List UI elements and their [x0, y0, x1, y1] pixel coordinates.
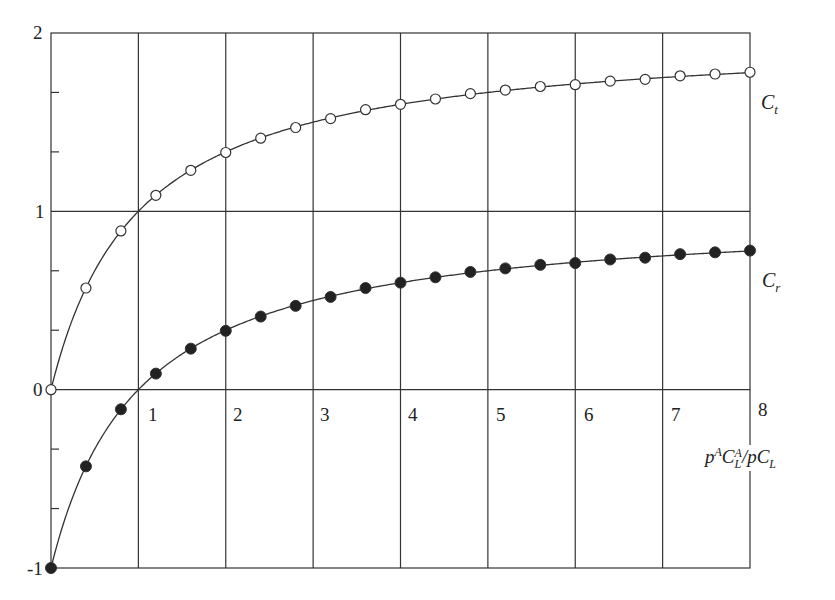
xlabel-sup-a: A: [715, 445, 722, 459]
x-tick-6: 6: [584, 405, 594, 424]
filled-circle-marker-icon: [710, 247, 721, 258]
open-circle-marker-icon: [186, 165, 196, 175]
filled-circle-marker-icon: [80, 461, 91, 472]
filled-circle-marker-icon: [675, 249, 686, 260]
ct-sub: t: [774, 102, 778, 117]
filled-circle-marker-icon: [255, 311, 266, 322]
x-axis-label: pACAL/pCL: [703, 445, 778, 471]
open-circle-marker-icon: [46, 385, 56, 395]
xlabel-c: C: [722, 446, 735, 467]
x-tick-5: 5: [496, 405, 506, 424]
open-circle-marker-icon: [675, 71, 685, 81]
filled-circle-marker-icon: [115, 404, 126, 415]
filled-circle-marker-icon: [570, 258, 581, 269]
filled-circle-marker-icon: [745, 245, 756, 256]
open-circle-marker-icon: [116, 226, 126, 236]
y-tick-0: 0: [33, 380, 43, 399]
open-circle-marker-icon: [640, 74, 650, 84]
filled-circle-marker-icon: [535, 259, 546, 270]
filled-circle-marker-icon: [395, 277, 406, 288]
x-tick-3: 3: [320, 405, 330, 424]
filled-circle-marker-icon: [290, 300, 301, 311]
chart-plot: [0, 0, 835, 600]
open-circle-marker-icon: [326, 114, 336, 124]
filled-circle-marker-icon: [500, 263, 511, 274]
series-label-ct: Ct: [761, 92, 778, 116]
filled-circle-marker-icon: [605, 254, 616, 265]
xlabel-sub-l: L: [735, 459, 742, 470]
filled-circle-marker-icon: [430, 272, 441, 283]
xlabel-p: p: [705, 446, 715, 467]
filled-circle-marker-icon: [46, 563, 57, 574]
series-label-cr: Cr: [762, 270, 780, 294]
filled-circle-marker-icon: [185, 343, 196, 354]
filled-circle-marker-icon: [220, 325, 231, 336]
open-circle-marker-icon: [605, 76, 615, 86]
open-circle-marker-icon: [221, 147, 231, 157]
y-tick-2: 2: [33, 23, 43, 42]
ct-main: C: [761, 91, 774, 113]
open-circle-marker-icon: [396, 99, 406, 109]
x-tick-1: 1: [148, 405, 158, 424]
open-circle-marker-icon: [430, 94, 440, 104]
open-circle-marker-icon: [710, 69, 720, 79]
x-tick-8: 8: [758, 400, 768, 419]
cr-main: C: [762, 269, 775, 291]
xlabel-sub-l2: L: [769, 457, 776, 471]
filled-circle-marker-icon: [150, 368, 161, 379]
filled-circle-marker-icon: [640, 252, 651, 263]
open-circle-marker-icon: [465, 89, 475, 99]
x-tick-2: 2: [233, 405, 243, 424]
filled-circle-marker-icon: [465, 266, 476, 277]
filled-circle-marker-icon: [325, 291, 336, 302]
open-circle-marker-icon: [535, 82, 545, 92]
minor-ticks: [51, 92, 59, 508]
open-circle-marker-icon: [500, 85, 510, 95]
y-tick-minus-1: -1: [27, 559, 43, 578]
x-tick-7: 7: [671, 405, 681, 424]
filled-circle-marker-icon: [360, 283, 371, 294]
open-circle-marker-icon: [745, 67, 755, 77]
xlabel-pc: pC: [747, 446, 769, 467]
y-tick-1: 1: [35, 202, 45, 221]
grid-lines: [51, 33, 750, 568]
open-circle-marker-icon: [291, 123, 301, 133]
open-circle-marker-icon: [570, 80, 580, 90]
open-circle-marker-icon: [151, 190, 161, 200]
open-circle-marker-icon: [81, 283, 91, 293]
open-circle-marker-icon: [256, 133, 266, 143]
x-tick-4: 4: [408, 405, 418, 424]
cr-sub: r: [775, 280, 780, 295]
open-circle-marker-icon: [361, 105, 371, 115]
